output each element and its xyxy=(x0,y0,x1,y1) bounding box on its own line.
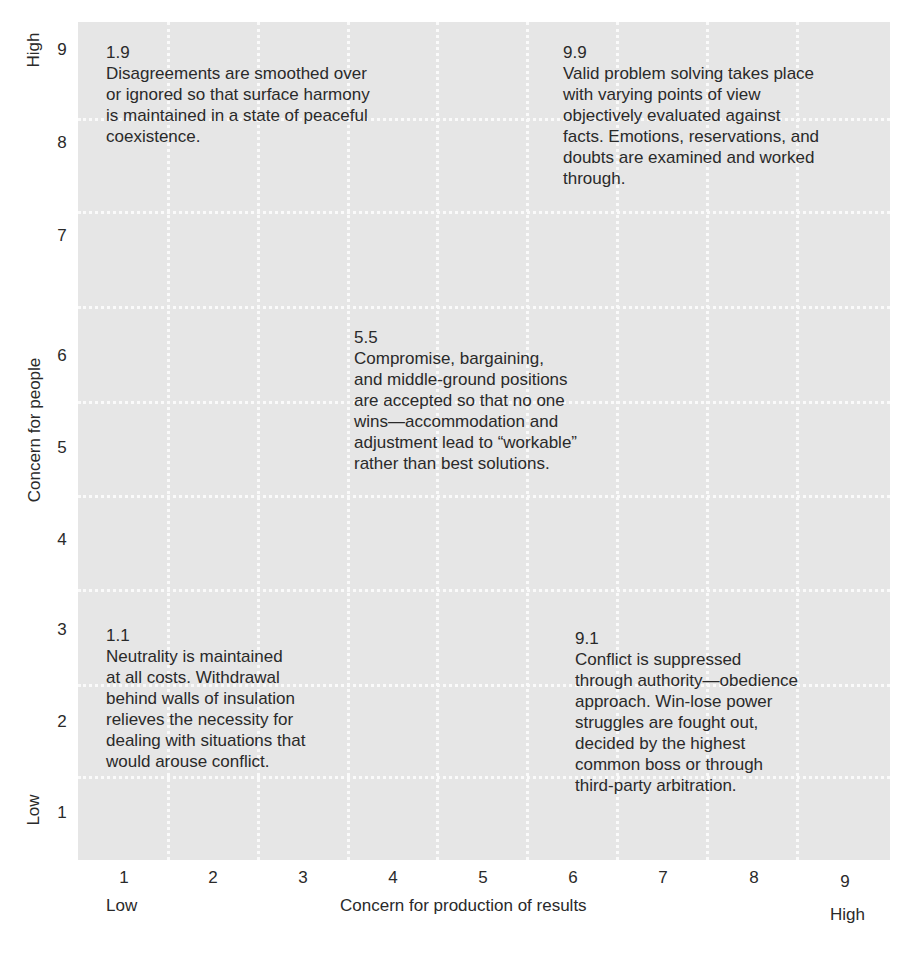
style-code: 5.5 xyxy=(354,327,577,348)
style-text-line: Conflict is suppressed xyxy=(575,649,798,670)
y-axis-high-label: High xyxy=(24,30,44,70)
y-tick: 7 xyxy=(54,226,70,246)
style-text-line: rather than best solutions. xyxy=(354,453,577,474)
y-tick: 2 xyxy=(54,712,70,732)
x-tick: 3 xyxy=(293,868,313,888)
x-tick: 6 xyxy=(563,868,583,888)
style-text-line: decided by the highest xyxy=(575,733,798,754)
style-text-line: third-party arbitration. xyxy=(575,775,798,796)
y-axis-title: Concern for people xyxy=(25,355,45,505)
style-text-line: are accepted so that no one xyxy=(354,390,577,411)
x-tick: 5 xyxy=(473,868,493,888)
x-tick: 1 xyxy=(114,868,134,888)
style-text-line: and middle-ground positions xyxy=(354,369,577,390)
style-block-1-1: 1.1 Neutrality is maintained at all cost… xyxy=(106,625,305,772)
x-axis-high-label: High xyxy=(830,905,865,925)
style-text-line: with varying points of view xyxy=(563,84,819,105)
style-text-line: common boss or through xyxy=(575,754,798,775)
style-text-line: Neutrality is maintained xyxy=(106,646,305,667)
x-tick: 7 xyxy=(653,868,673,888)
style-text-line: at all costs. Withdrawal xyxy=(106,667,305,688)
y-tick: 3 xyxy=(54,620,70,640)
style-text-line: Valid problem solving takes place xyxy=(563,63,819,84)
style-text-line: dealing with situations that xyxy=(106,730,305,751)
grid-line-horizontal xyxy=(78,495,890,498)
style-block-1-9: 1.9 Disagreements are smoothed over or i… xyxy=(106,42,370,147)
style-code: 9.9 xyxy=(563,42,819,63)
y-tick: 5 xyxy=(54,438,70,458)
style-text-line: struggles are fought out, xyxy=(575,712,798,733)
style-text-line: facts. Emotions, reservations, and xyxy=(563,126,819,147)
style-text-line: or ignored so that surface harmony xyxy=(106,84,370,105)
y-tick: 4 xyxy=(54,530,70,550)
x-tick: 2 xyxy=(203,868,223,888)
style-code: 1.9 xyxy=(106,42,370,63)
style-text-line: adjustment lead to “workable” xyxy=(354,432,577,453)
y-tick: 9 xyxy=(54,40,70,60)
style-text-line: coexistence. xyxy=(106,126,370,147)
y-tick: 6 xyxy=(54,346,70,366)
style-code: 1.1 xyxy=(106,625,305,646)
style-code: 9.1 xyxy=(575,628,798,649)
style-text-line: approach. Win-lose power xyxy=(575,691,798,712)
style-text-line: through. xyxy=(563,168,819,189)
style-text-line: wins—accommodation and xyxy=(354,411,577,432)
style-text-line: behind walls of insulation xyxy=(106,688,305,709)
x-tick: 9 xyxy=(835,872,855,892)
y-tick: 1 xyxy=(54,803,70,823)
style-text-line: objectively evaluated against xyxy=(563,105,819,126)
style-text-line: doubts are examined and worked xyxy=(563,147,819,168)
grid-line-vertical xyxy=(347,22,350,860)
style-text-line: would arouse conflict. xyxy=(106,751,305,772)
style-block-9-1: 9.1 Conflict is suppressed through autho… xyxy=(575,628,798,796)
x-tick: 4 xyxy=(383,868,403,888)
style-text-line: through authority—obedience xyxy=(575,670,798,691)
style-block-5-5: 5.5 Compromise, bargaining, and middle-g… xyxy=(354,327,577,474)
y-axis-low-label: Low xyxy=(24,790,44,830)
style-text-line: relieves the necessity for xyxy=(106,709,305,730)
style-text-line: is maintained in a state of peaceful xyxy=(106,105,370,126)
x-axis-title: Concern for production of results xyxy=(340,896,587,916)
style-text-line: Disagreements are smoothed over xyxy=(106,63,370,84)
style-block-9-9: 9.9 Valid problem solving takes place wi… xyxy=(563,42,819,189)
grid-line-horizontal xyxy=(78,306,890,309)
grid-line-horizontal xyxy=(78,211,890,214)
y-tick: 8 xyxy=(54,133,70,153)
style-text-line: Compromise, bargaining, xyxy=(354,348,577,369)
x-tick: 8 xyxy=(744,868,764,888)
grid-line-horizontal xyxy=(78,589,890,592)
x-axis-low-label: Low xyxy=(106,896,137,916)
